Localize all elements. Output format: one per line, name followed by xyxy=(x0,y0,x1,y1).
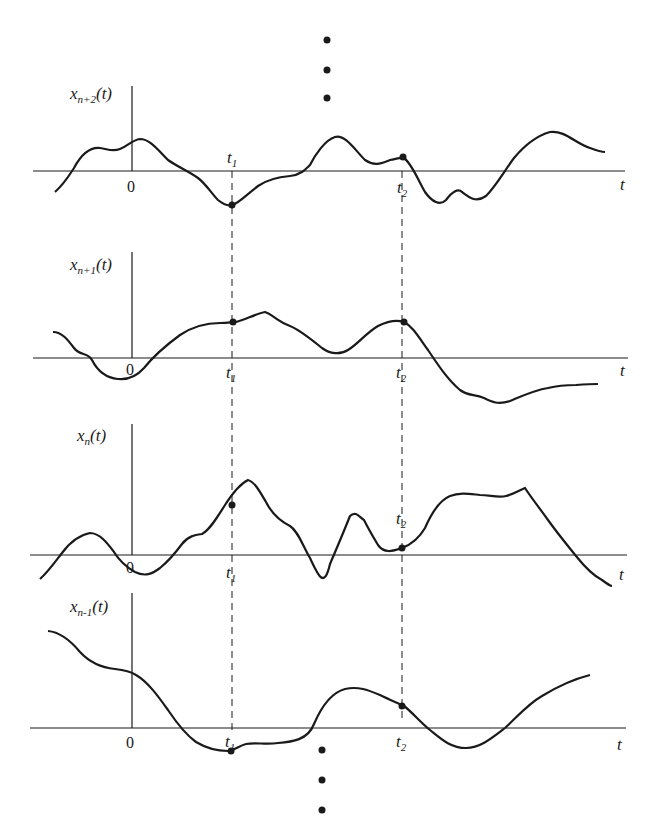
ellipsis-bottom-dot-2 xyxy=(319,777,326,784)
panel3-t2-label: t2 xyxy=(396,509,407,530)
panel3-origin-label: 0 xyxy=(126,559,134,576)
panel1-t2-point xyxy=(400,154,407,161)
panel4-t2-point xyxy=(399,703,406,710)
panel1-origin-label: 0 xyxy=(127,178,135,195)
panel1-ylabel: xn+2(t) xyxy=(69,84,112,105)
panel1-t2-label: t2 xyxy=(397,178,408,199)
panel3-t-axis-label: t xyxy=(619,565,625,584)
ellipsis-bottom-dot-3 xyxy=(319,807,326,814)
panel3-t2-point xyxy=(399,545,406,552)
panel1-t1-label: t1 xyxy=(227,148,237,169)
ellipsis-bottom-dot-1 xyxy=(319,747,326,754)
panel2-ylabel: xn+1(t) xyxy=(69,255,112,276)
panel4-t-axis-label: t xyxy=(617,735,623,754)
panel2-t2-label: t2 xyxy=(396,363,407,384)
panel4-waveform xyxy=(48,631,590,751)
panel4-t1-label: t1 xyxy=(225,732,235,753)
panel1-waveform xyxy=(55,132,605,206)
ellipsis-top-dot-1 xyxy=(324,37,331,44)
panel3-t1-label: t1 xyxy=(226,563,236,584)
panel2-t1-point xyxy=(230,319,237,326)
panel1-t-axis-label: t xyxy=(620,175,626,194)
panel4-t2-label: t2 xyxy=(396,732,407,753)
panel3-t1-point xyxy=(229,502,236,509)
panel4-origin-label: 0 xyxy=(126,734,134,751)
panel2-origin-label: 0 xyxy=(126,361,134,378)
ellipsis-top-dot-3 xyxy=(324,95,331,102)
panel4-ylabel: xn-1(t) xyxy=(69,597,109,618)
panel2-t1-label: t1 xyxy=(226,363,236,384)
panel2-t-axis-label: t xyxy=(620,361,626,380)
ellipsis-top-dot-2 xyxy=(324,67,331,74)
panel3-ylabel: xn(t) xyxy=(76,426,106,447)
panel1-t1-point xyxy=(229,202,236,209)
panel2-t2-point xyxy=(401,319,408,326)
ensemble-diagram: xn+2(t) 0 t1 t2 t xn+1(t) 0 t1 t2 t xn(t… xyxy=(0,0,649,818)
